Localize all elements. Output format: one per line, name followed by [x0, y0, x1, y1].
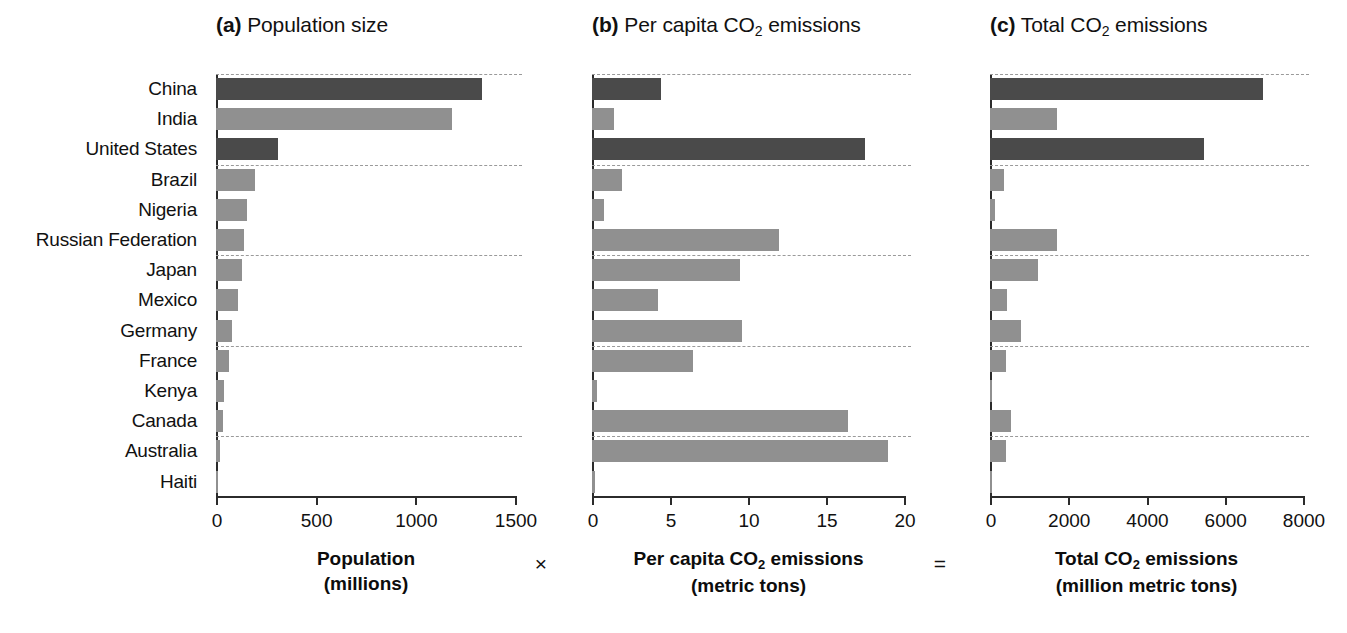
- tick-a-500: [316, 498, 318, 505]
- panel-b-caption-line1: Per capita CO2 emissions: [592, 546, 905, 573]
- bar-b-russian-federation: [592, 229, 779, 251]
- panel-b-title-post: emissions: [763, 13, 861, 36]
- tick-label-b-0: 0: [588, 510, 599, 532]
- panel-b-caption-line2: (metric tons): [592, 573, 905, 598]
- tick-label-b-10: 10: [738, 510, 759, 532]
- bar-row: [216, 165, 515, 195]
- bar-a-mexico: [216, 289, 238, 311]
- tick-label-b-5: 5: [666, 510, 677, 532]
- tick-b-15: [826, 498, 828, 505]
- panel-b-axis-caption: Per capita CO2 emissions (metric tons): [592, 546, 905, 598]
- bar-row: [216, 225, 515, 255]
- bar-a-india: [216, 108, 452, 130]
- bar-row: [990, 467, 1303, 497]
- bar-row: [990, 255, 1303, 285]
- panel-per-capita: 05101520: [592, 74, 905, 498]
- panel-c-axis-caption: Total CO2 emissions (million metric tons…: [990, 546, 1303, 598]
- bar-b-united-states: [592, 138, 865, 160]
- bar-c-china: [990, 78, 1263, 100]
- bar-row: [216, 104, 515, 134]
- tick-a-1000: [415, 498, 417, 505]
- tick-c-4000: [1147, 498, 1149, 505]
- bar-row: [990, 195, 1303, 225]
- bar-a-brazil: [216, 169, 255, 191]
- panel-population: 050010001500: [216, 74, 516, 498]
- plot-area-b: 05101520: [592, 74, 905, 498]
- bar-row: [216, 195, 515, 225]
- tick-label-c-0: 0: [986, 510, 997, 532]
- bar-row: [990, 165, 1303, 195]
- tick-label-c-4000: 4000: [1126, 510, 1168, 532]
- bar-row: [592, 134, 904, 164]
- tick-c-2000: [1068, 498, 1070, 505]
- bar-row: [592, 436, 904, 466]
- panel-c-caption-sub: 2: [1133, 557, 1140, 572]
- bar-row: [592, 195, 904, 225]
- tick-b-5: [670, 498, 672, 505]
- tick-label-a-1500: 1500: [495, 510, 537, 532]
- tick-c-8000: [1303, 498, 1305, 505]
- panel-b-title-pre: Per capita CO: [624, 13, 755, 36]
- panel-a-tag: (a): [216, 13, 241, 36]
- panel-c-title: (c) Total CO2 emissions: [990, 13, 1208, 37]
- tick-label-b-15: 15: [816, 510, 837, 532]
- bar-row: [592, 225, 904, 255]
- bar-a-germany: [216, 320, 232, 342]
- bar-b-india: [592, 108, 614, 130]
- category-label-india: India: [157, 104, 197, 134]
- panel-total-emissions: 02000400060008000: [990, 74, 1303, 498]
- bar-row: [592, 74, 904, 104]
- bar-b-brazil: [592, 169, 622, 191]
- category-label-united-states: United States: [86, 134, 197, 164]
- bar-row: [990, 285, 1303, 315]
- bar-row: [216, 316, 515, 346]
- bar-c-nigeria: [990, 199, 995, 221]
- category-label-germany: Germany: [120, 316, 197, 346]
- bar-b-france: [592, 350, 693, 372]
- panel-c-caption-line2: (million metric tons): [990, 573, 1303, 598]
- bar-row: [990, 74, 1303, 104]
- category-label-japan: Japan: [146, 255, 197, 285]
- panel-c-caption-post: emissions: [1140, 548, 1238, 569]
- bar-row: [592, 255, 904, 285]
- bar-c-japan: [990, 259, 1038, 281]
- bar-row: [592, 285, 904, 315]
- tick-a-1500: [515, 498, 517, 505]
- bar-c-brazil: [990, 169, 1004, 191]
- panel-c-tag: (c): [990, 13, 1015, 36]
- multiply-operator: ×: [521, 552, 561, 576]
- bar-row: [592, 406, 904, 436]
- bar-row: [990, 406, 1303, 436]
- category-axis-labels: ChinaIndiaUnited StatesBrazilNigeriaRuss…: [0, 74, 205, 498]
- bar-row: [216, 255, 515, 285]
- bar-row: [216, 346, 515, 376]
- bar-c-haiti: [990, 471, 992, 493]
- bar-row: [592, 165, 904, 195]
- panel-a-title: (a) Population size: [216, 13, 388, 37]
- bar-a-nigeria: [216, 199, 247, 221]
- bar-row: [990, 436, 1303, 466]
- tick-label-b-20: 20: [894, 510, 915, 532]
- category-label-france: France: [139, 346, 197, 376]
- category-label-china: China: [148, 74, 197, 104]
- panel-b-title-sub: 2: [755, 23, 763, 39]
- bar-row: [216, 134, 515, 164]
- bar-c-germany: [990, 320, 1021, 342]
- bar-row: [990, 346, 1303, 376]
- panel-b-caption-post: emissions: [765, 548, 863, 569]
- bar-row: [592, 376, 904, 406]
- bar-a-kenya: [216, 380, 224, 402]
- panel-b-title: (b) Per capita CO2 emissions: [592, 13, 861, 37]
- bar-row: [990, 316, 1303, 346]
- category-label-nigeria: Nigeria: [138, 195, 197, 225]
- bar-c-russian-federation: [990, 229, 1057, 251]
- panel-a-caption-line1: Population: [216, 546, 516, 571]
- bar-row: [990, 376, 1303, 406]
- panel-a-title-text: Population size: [247, 13, 388, 36]
- bar-row: [216, 376, 515, 406]
- bar-b-mexico: [592, 289, 658, 311]
- bar-a-canada: [216, 410, 223, 432]
- bar-row: [216, 467, 515, 497]
- tick-label-a-500: 500: [301, 510, 333, 532]
- bar-a-australia: [216, 440, 220, 462]
